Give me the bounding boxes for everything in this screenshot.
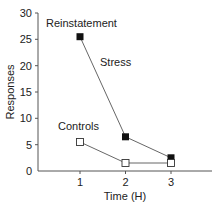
- x-tick-label: 1: [77, 176, 83, 188]
- y-tick-label: 30: [20, 7, 32, 19]
- controls-point: [168, 160, 175, 167]
- line-chart: 30 25 20 15 10 5 0 1 2 3 Time (H) Respon…: [0, 0, 216, 206]
- x-tick-label: 2: [122, 176, 128, 188]
- y-tick-label: 10: [20, 112, 32, 124]
- stress-markers: [77, 33, 175, 161]
- y-tick-label: 15: [20, 86, 32, 98]
- x-tick-label: 3: [168, 176, 174, 188]
- y-tick-label: 5: [26, 139, 32, 151]
- y-tick-label: 25: [20, 33, 32, 45]
- y-tick-label: 20: [20, 60, 32, 72]
- annotation-reinstatement: Reinstatement: [46, 17, 117, 29]
- x-axis-title: Time (H): [104, 190, 146, 202]
- stress-point: [122, 133, 129, 140]
- annotation-stress: Stress: [100, 56, 132, 68]
- y-tick-label: 0: [26, 165, 32, 177]
- annotation-controls: Controls: [58, 120, 99, 132]
- y-axis-title: Responses: [4, 64, 16, 120]
- controls-point: [77, 139, 84, 146]
- controls-point: [122, 160, 129, 167]
- stress-point: [77, 33, 84, 40]
